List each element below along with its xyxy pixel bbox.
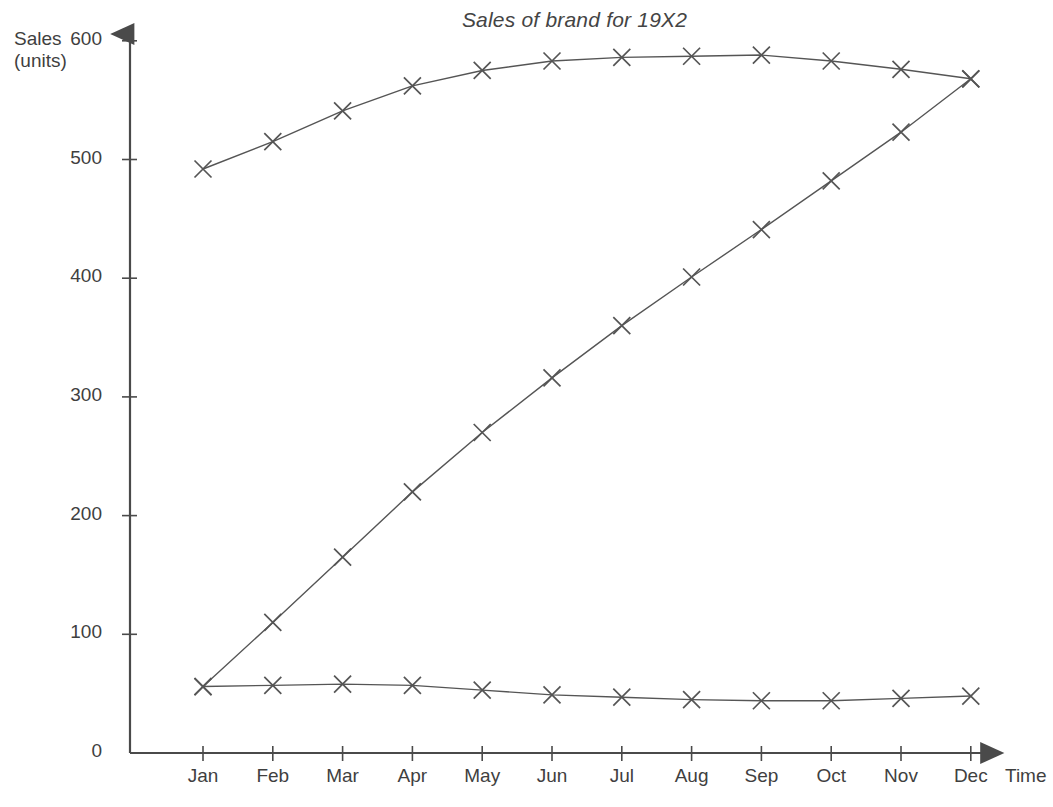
data-series — [195, 47, 980, 178]
data-point-marker-x — [264, 614, 281, 631]
data-point-marker-x — [334, 102, 351, 119]
data-point-marker-x — [893, 61, 910, 78]
plot-area — [0, 0, 1053, 807]
data-point-marker-x — [613, 317, 630, 334]
data-series — [195, 676, 980, 710]
data-point-marker-x — [753, 221, 770, 238]
data-series — [195, 70, 980, 695]
chart-canvas: Sales of brand for 19X2 Sales (units) Ti… — [0, 0, 1053, 807]
data-point-marker-x — [264, 133, 281, 150]
data-point-marker-x — [544, 369, 561, 386]
series-line — [203, 55, 971, 169]
data-point-marker-x — [474, 62, 491, 79]
data-point-marker-x — [823, 172, 840, 189]
series-line — [203, 684, 971, 701]
data-point-marker-x — [334, 549, 351, 566]
data-point-marker-x — [404, 483, 421, 500]
series-line — [203, 79, 971, 687]
data-point-marker-x — [404, 77, 421, 94]
axes — [130, 34, 1000, 753]
data-series-group — [195, 47, 980, 710]
data-point-marker-x — [195, 160, 212, 177]
data-point-marker-x — [474, 424, 491, 441]
data-point-marker-x — [962, 70, 979, 87]
data-point-marker-x — [893, 124, 910, 141]
data-point-marker-x — [683, 269, 700, 286]
